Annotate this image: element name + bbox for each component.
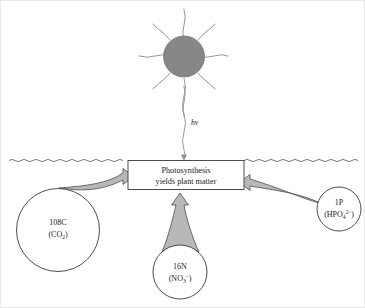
light-ray-arrowhead [181, 155, 187, 161]
water-surface-line [9, 159, 123, 161]
process-box-line1: Photosynthesis [161, 166, 210, 175]
nutrient-node-carbon: 108C (CO2) [17, 189, 100, 272]
carbon-formula-label: (CO2) [48, 230, 68, 240]
photon-energy-label: hν [191, 118, 199, 127]
sun-ray-ne [198, 24, 215, 40]
process-box-line2: yields plant matter [156, 177, 217, 186]
light-ray [183, 78, 186, 159]
sun-ray-nw [153, 24, 170, 40]
phosphorus-circle [317, 187, 361, 231]
arrow-phosphorus-to-box [239, 175, 322, 205]
sun-disc [164, 36, 205, 77]
photosynthesis-diagram: hν 108C (CO2) 16N (NO3−) [0, 0, 365, 308]
nitrogen-formula-label: (NO3−) [169, 273, 192, 284]
light-ray-group: hν [181, 78, 199, 161]
arrow-nitrogen-to-box [162, 193, 199, 252]
nitrogen-quantity-label: 16N [173, 262, 187, 271]
nitrogen-circle [153, 245, 207, 299]
water-surface-line-right [244, 159, 358, 161]
sun-group [139, 9, 228, 116]
process-box: Photosynthesis yields plant matter [128, 161, 244, 190]
carbon-quantity-label: 108C [49, 218, 66, 227]
sun-ray-se [198, 73, 215, 89]
nutrient-node-phosphorus: 1P (HPO42−) [317, 187, 361, 231]
arrow-carbon-to-box [59, 169, 134, 190]
sun-ray-n [183, 9, 186, 40]
phosphorus-quantity-label: 1P [335, 198, 344, 207]
sun-ray-sw [153, 73, 170, 89]
nutrient-node-nitrogen: 16N (NO3−) [153, 245, 207, 299]
